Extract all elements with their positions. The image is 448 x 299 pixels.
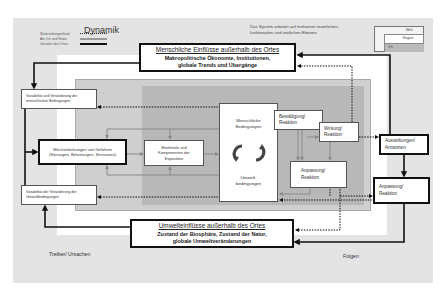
dotted-arrow-icon: [80, 33, 107, 34]
external-human-influences-box: Menschliche Einflüsse außerhalb des Orte…: [139, 43, 296, 72]
coping-response-box: Bewältigung/ Reaktion: [274, 110, 323, 130]
external-environmental-influences-box: Umwelteinflüsse außerhalb des Ortes Zust…: [130, 219, 294, 248]
conditions-box: Menschliche Bedingungen Umwelt-bedingung…: [219, 103, 278, 202]
effect-response-box: Wirkung/ Reaktion: [319, 122, 359, 142]
environmental-conditions-label: Umwelt-bedingungen: [230, 175, 267, 187]
adaptation-outer-box: Anpassung/ Reaktion: [373, 177, 430, 204]
scale-level-world: Welt Region Ort: [374, 26, 424, 52]
variability-human-conditions-box: Variabilität und Veränderung der menschl…: [21, 89, 97, 109]
grey-arrow-icon: [80, 38, 107, 40]
system-note: Das System arbeitet auf mehreren räumlic…: [250, 24, 339, 36]
scale-level-place: Ort: [385, 43, 424, 52]
adaptation-inner-box: Anpassung/ Reaktion: [290, 161, 347, 188]
hazard-interactions-box: Wechselwirkungen von Gefahren (Störungen…: [38, 139, 127, 165]
consequences-label: Folgen: [343, 253, 359, 259]
legend: Skalenübergreifend Am Ort und Statis Jen…: [40, 31, 107, 46]
drivers-label: Treiber/ Ursachen: [49, 251, 90, 257]
thick-arrow-icon: [80, 43, 107, 45]
impacts-responses-box: Auswirkungen/ Antworten: [379, 134, 429, 155]
legend-item-beyond: Jenseits des Ortes: [40, 41, 107, 46]
variability-environmental-conditions-box: Variabilität der Veränderung der Umweltb…: [21, 185, 97, 205]
cycle-arrows-icon: [229, 143, 269, 163]
exposure-box: Merkmale und Komponenten der Exposition: [144, 140, 204, 166]
human-conditions-label: Menschliche Bedingungen: [230, 118, 268, 130]
scale-level-region: Region Ort: [384, 34, 424, 52]
